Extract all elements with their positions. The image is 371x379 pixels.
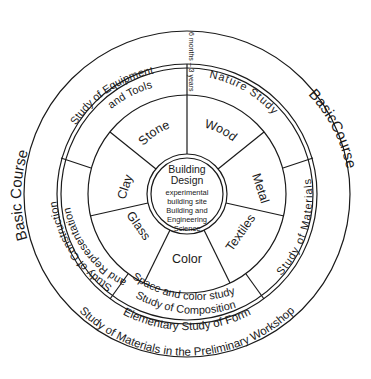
wheel-svg: Basic Course BasicCourse Elementary Stud…: [0, 0, 371, 379]
center-line-1: experimental: [166, 188, 209, 197]
wood-label: Wood: [203, 117, 239, 144]
bauhaus-curriculum-diagram: Basic Course BasicCourse Elementary Stud…: [0, 0, 371, 379]
center-line-3: Building and: [166, 206, 207, 215]
color-label: Color: [172, 252, 202, 266]
basic-course-right-label: BasicCourse: [306, 85, 361, 170]
nature-study-label: Nature Study: [209, 68, 282, 117]
center-line-5: Science: [174, 224, 201, 233]
center-title-2: Design: [171, 174, 204, 186]
textiles-label: Textiles: [223, 212, 258, 254]
glass-label: Glass: [124, 209, 154, 243]
duration-label: 6 months – 3 years: [187, 32, 195, 92]
stone-label: Stone: [136, 118, 172, 148]
metal-label: Metal: [249, 172, 272, 205]
equipment-label-1: Study of Equipment: [67, 64, 154, 127]
center-line-2: building site: [167, 197, 207, 206]
center-line-4: Engineering: [167, 215, 207, 224]
basic-course-left-label: Basic Course: [7, 147, 31, 243]
clay-label: Clay: [115, 172, 136, 201]
